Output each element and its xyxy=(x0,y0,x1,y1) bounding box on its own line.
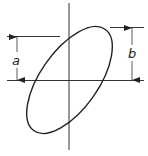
diagram-canvas: a b xyxy=(0,0,148,156)
lissajous-diagram: a b xyxy=(0,0,148,156)
a-label: a xyxy=(12,53,20,68)
b-label: b xyxy=(128,46,136,61)
